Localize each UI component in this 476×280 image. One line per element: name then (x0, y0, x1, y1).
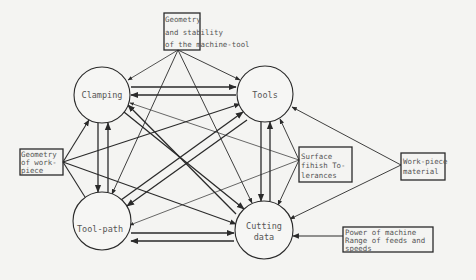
node-clamping-label: Clamping (82, 90, 123, 100)
node-cutting-data-label-line2: data (254, 232, 274, 242)
node-tools-label: Tools (252, 90, 278, 100)
box-machine-tool-line3: of the machine-tool (165, 40, 250, 49)
box-surface-finish: Surface fihish To- lerances (299, 147, 352, 182)
node-tool-path: Tool-path (73, 192, 131, 250)
box-power-line3: speeds (345, 244, 372, 253)
node-clamping: Clamping (74, 67, 130, 123)
box-power: Power of machine Range of feeds and spee… (343, 227, 433, 253)
box-workpiece-material-line2: material (403, 167, 439, 176)
box-workpiece-geometry-line3: piece (21, 166, 44, 175)
edges-clamping-toolpath (98, 123, 108, 192)
box-surface-finish-line3: lerances (301, 171, 337, 180)
box-workpiece-material-line1: Work-piece (403, 157, 448, 166)
edges-tools-toolpath (121, 112, 247, 206)
box-workpiece-material: Work-piece material (401, 153, 448, 180)
edges-clamping-tools (131, 87, 236, 95)
box-workpiece-geometry: Geometry of work- piece (20, 149, 63, 175)
box-surface-finish-line1: Surface (301, 152, 333, 161)
box-machine-tool-line1: Geometry (165, 15, 201, 24)
box-machine-tool-line2: and stability (165, 28, 223, 37)
influence-diagram: Clamping Tools Tool-path Cutting data Ge… (0, 0, 476, 280)
node-tool-path-label: Tool-path (77, 224, 123, 234)
box-surface-finish-line2: fihish To- (301, 161, 346, 170)
edges-toolpath-cutting (131, 233, 234, 241)
node-tools: Tools (237, 66, 293, 122)
node-cutting-data: Cutting data (235, 201, 293, 259)
node-cutting-data-label-line1: Cutting (246, 221, 282, 231)
edges-tools-cutting (261, 122, 270, 201)
box-machine-tool: Geometry and stability of the machine-to… (164, 13, 250, 50)
edges-machine-tool (112, 50, 252, 203)
